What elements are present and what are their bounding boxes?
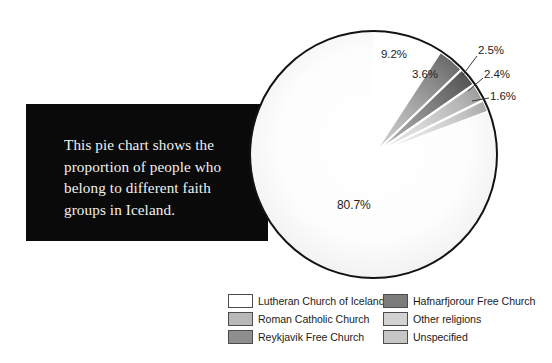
legend-item-label: Other religions bbox=[413, 313, 481, 325]
leader-line-other bbox=[468, 78, 483, 91]
caption-text: This pie chart shows the proportion of p… bbox=[64, 134, 244, 220]
legend-item-label: Reykjavik Free Church bbox=[258, 331, 364, 343]
pie-slices bbox=[251, 32, 496, 277]
pie-label-roman-catholic: 9.2% bbox=[381, 48, 407, 60]
pie-label-reykjavik: 3.6% bbox=[412, 68, 438, 80]
legend-swatch-icon bbox=[383, 330, 408, 344]
leader-line-hafnar bbox=[462, 56, 477, 76]
leader-line-unspecified bbox=[472, 98, 489, 101]
legend-item-label: Lutheran Church of Iceland bbox=[258, 295, 385, 307]
pie-label-lutheran: 80.7% bbox=[337, 198, 371, 212]
legend-item-hafnarfjorour-free-church[interactable]: Hafnarfjorour Free Church bbox=[383, 292, 538, 310]
pie-slice[interactable] bbox=[374, 70, 474, 155]
pie-chart-figure: This pie chart shows the proportion of p… bbox=[0, 0, 552, 363]
legend-swatch-icon bbox=[228, 312, 253, 326]
legend-swatch-icon bbox=[228, 294, 253, 308]
chart-legend: Lutheran Church of Iceland Hafnarfjorour… bbox=[228, 292, 538, 346]
legend-item-label: Hafnarfjorour Free Church bbox=[413, 295, 535, 307]
caption-panel: This pie chart shows the proportion of p… bbox=[26, 104, 268, 241]
legend-item-roman-catholic-church[interactable]: Roman Catholic Church bbox=[228, 310, 383, 328]
legend-item-reykjavik-free-church[interactable]: Reykjavik Free Church bbox=[228, 328, 383, 346]
legend-item-unspecified[interactable]: Unspecified bbox=[383, 328, 538, 346]
pie-label-unspecified: 1.6% bbox=[490, 90, 516, 102]
pie-slice[interactable] bbox=[374, 84, 484, 154]
legend-item-label: Roman Catholic Church bbox=[258, 313, 369, 325]
legend-item-label: Unspecified bbox=[413, 331, 468, 343]
legend-item-lutheran-church-of-iceland[interactable]: Lutheran Church of Iceland bbox=[228, 292, 383, 310]
legend-swatch-icon bbox=[383, 312, 408, 326]
legend-swatch-icon bbox=[228, 330, 253, 344]
pie-label-hafnarfjorour: 2.5% bbox=[478, 44, 504, 56]
pie-slice[interactable] bbox=[374, 100, 489, 154]
pie-outline bbox=[250, 31, 497, 278]
pie-label-other-religions: 2.4% bbox=[484, 68, 510, 80]
pie-slice[interactable] bbox=[251, 32, 496, 277]
legend-item-other-religions[interactable]: Other religions bbox=[383, 310, 538, 328]
legend-swatch-icon bbox=[383, 294, 408, 308]
